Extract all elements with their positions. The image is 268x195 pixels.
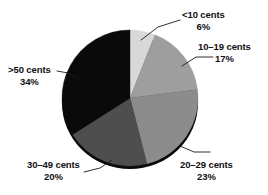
pie-label-20-29-category: 20–29 cents [180,159,233,171]
pie-label-20-29-percent: 23% [180,171,233,183]
pie-label-20-29: 20–29 cents 23% [180,159,233,182]
pie-label-10-19-percent: 17% [198,53,251,65]
pie-label-30-49-percent: 20% [27,171,80,183]
pie-label-30-49-category: 30–49 cents [27,159,80,171]
pie-label-10-19: 10–19 cents 17% [198,41,251,64]
pie-label-lt10-category: <10 cents [182,9,225,21]
pie-label-10-19-category: 10–19 cents [198,41,251,53]
pie-label-gt50-category: >50 cents [8,64,51,76]
pie-label-gt50: >50 cents 34% [8,64,51,87]
pie-label-lt10-percent: 6% [182,21,225,33]
pie-label-lt10: <10 cents 6% [182,9,225,32]
pie-label-30-49: 30–49 cents 20% [27,159,80,182]
pie-chart-figure: <10 cents 6% 10–19 cents 17% >50 cents 3… [0,0,268,195]
leader-line-20-29 [180,146,210,152]
pie-label-gt50-percent: 34% [8,76,51,88]
pie-slices [62,30,198,166]
